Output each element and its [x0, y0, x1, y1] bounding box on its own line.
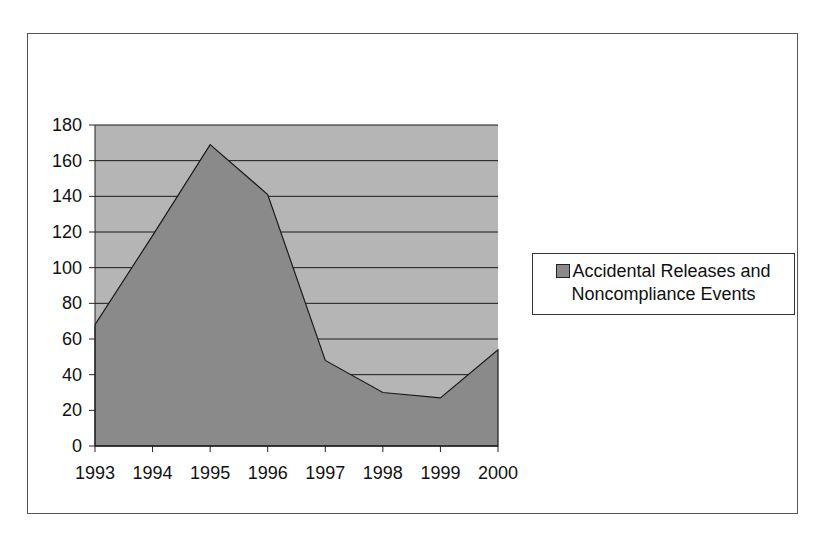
- x-tick-label: 1994: [133, 463, 173, 483]
- x-tick-label: 1998: [363, 463, 403, 483]
- y-tick-label: 100: [52, 258, 82, 278]
- x-tick-label: 1999: [420, 463, 460, 483]
- legend-swatch-icon: [556, 264, 570, 278]
- y-tick-label: 0: [72, 436, 82, 456]
- y-tick-label: 80: [62, 293, 82, 313]
- legend-label-line2: Noncompliance Events: [533, 283, 794, 306]
- legend-entry: Accidental Releases and: [533, 260, 794, 283]
- y-tick-label: 180: [52, 115, 82, 135]
- y-tick-label: 40: [62, 365, 82, 385]
- legend: Accidental Releases and Noncompliance Ev…: [532, 253, 795, 315]
- y-tick-label: 20: [62, 400, 82, 420]
- x-tick-label: 2000: [478, 463, 518, 483]
- y-axis: 020406080100120140160180: [52, 115, 95, 456]
- y-tick-label: 60: [62, 329, 82, 349]
- x-axis: 19931994199519961997199819992000: [75, 446, 518, 483]
- y-tick-label: 140: [52, 186, 82, 206]
- x-tick-label: 1996: [248, 463, 288, 483]
- x-tick-label: 1993: [75, 463, 115, 483]
- legend-label-line1: Accidental Releases and: [572, 261, 770, 281]
- plot-area: [95, 125, 498, 446]
- x-tick-label: 1997: [305, 463, 345, 483]
- x-tick-label: 1995: [190, 463, 230, 483]
- y-tick-label: 120: [52, 222, 82, 242]
- y-tick-label: 160: [52, 151, 82, 171]
